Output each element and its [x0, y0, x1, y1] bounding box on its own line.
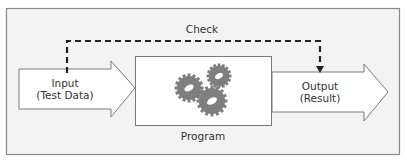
check-label: Check: [172, 23, 232, 35]
output-label: Output (Result): [285, 80, 355, 104]
program-label: Program: [173, 130, 233, 142]
output-label-title: Output: [285, 80, 355, 92]
input-label-subtitle: (Test Data): [22, 89, 108, 101]
input-label-title: Input: [22, 77, 108, 89]
output-label-subtitle: (Result): [285, 92, 355, 104]
input-label: Input (Test Data): [22, 77, 108, 101]
